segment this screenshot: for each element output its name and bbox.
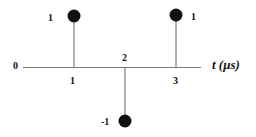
stem-marker-t2 <box>119 115 132 128</box>
tick-label-1: 1 <box>70 75 75 86</box>
stem-marker-t3 <box>170 9 183 22</box>
tick-label-0: 0 <box>13 60 18 71</box>
x-axis-label: t (μs) <box>212 57 240 72</box>
value-label-t3: 1 <box>191 11 196 22</box>
stem-plot: 1 1 -1 0 1 2 3 t (μs) <box>0 0 256 137</box>
tick-label-3: 3 <box>173 75 178 86</box>
stem-marker-t1 <box>68 10 81 23</box>
value-label-t1: 1 <box>48 12 53 23</box>
tick-label-2: 2 <box>122 52 127 63</box>
value-label-t2: -1 <box>101 116 109 127</box>
